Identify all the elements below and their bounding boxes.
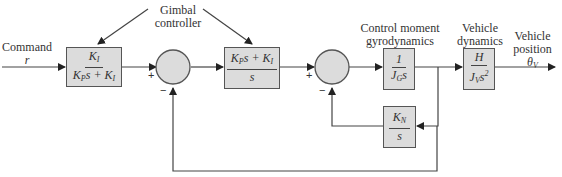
prefilter-numerator: KI (85, 50, 104, 68)
cmg-numerator: 1 (392, 53, 406, 68)
vehicle-denominator: JVs2 (470, 66, 489, 87)
cmg-label-line2: gyrodynamics (360, 35, 440, 48)
den-term: s + K (86, 68, 113, 82)
vehicle-dyn-line2: dynamics (450, 35, 510, 48)
summing-junction-1 (156, 50, 190, 84)
vehicle-pos-symbol: θV (505, 56, 560, 72)
k-sub: N (401, 116, 406, 125)
prefilter-block: KI KPs + KI (66, 47, 122, 87)
sum2-plus-sign: + (306, 69, 312, 81)
k-symbol: K (73, 68, 81, 82)
theta-subscript: V (533, 61, 538, 70)
cmg-label: Control moment gyrodynamics (360, 22, 440, 48)
kn-numerator: KN (389, 111, 410, 129)
command-symbol: r (2, 54, 52, 67)
k-sub: I (271, 57, 274, 66)
s-term: s (402, 68, 407, 82)
pi-numerator: KPs + KI (227, 52, 277, 70)
k-symbol: K (393, 110, 401, 124)
vehicle-numerator: H (471, 51, 488, 66)
cmg-denominator: JGs (391, 68, 407, 85)
sum1-minus-sign: − (160, 84, 166, 96)
k-symbol: K (231, 51, 239, 65)
pi-controller-block: KPs + KI s (224, 47, 280, 89)
vehicle-dynamics-block: H JVs2 (463, 48, 495, 90)
s-exponent: 2 (484, 69, 488, 78)
gimbal-label-line2: controller (148, 17, 208, 30)
gimbal-controller-label: Gimbal controller (148, 4, 208, 30)
vehicle-dynamics-label: Vehicle dynamics (450, 22, 510, 48)
kn-denominator: s (397, 129, 402, 143)
pi-denominator: s (250, 70, 255, 84)
vehicle-position-label: Vehicle position θV (505, 30, 560, 72)
num-term: s + K (244, 51, 271, 65)
command-label: Command r (2, 41, 52, 67)
k-symbol: K (89, 49, 97, 63)
kn-feedback-block: KN s (383, 106, 416, 148)
cmg-block: 1 JGs (383, 48, 415, 90)
k-sub: I (97, 55, 100, 64)
sum1-plus-sign: + (148, 69, 154, 81)
summing-junction-2 (315, 50, 349, 84)
k-sub: I (113, 74, 116, 83)
prefilter-denominator: KPs + KI (73, 68, 115, 85)
sum2-minus-sign: − (319, 84, 325, 96)
